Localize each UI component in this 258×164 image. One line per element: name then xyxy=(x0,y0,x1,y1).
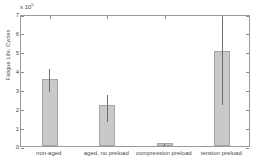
y-tick-mark-right xyxy=(246,148,249,149)
error-bar xyxy=(107,95,108,121)
y-axis-multiplier-base: x 10 xyxy=(20,4,31,10)
y-axis-label: Fatigue Life, Cycles xyxy=(5,17,11,93)
y-axis-multiplier: x 105 xyxy=(20,2,34,10)
fatigue-life-bar-chart: Fatigue Life, Cycles x 105 01234567 non-… xyxy=(0,0,258,164)
y-tick-mark xyxy=(21,72,24,73)
y-tick-label: 3 xyxy=(16,88,19,95)
y-axis-multiplier-exponent: 5 xyxy=(31,2,33,7)
y-tick-mark xyxy=(21,148,24,149)
y-tick-mark-right xyxy=(246,129,249,130)
x-tick-label: tension preload xyxy=(201,150,242,156)
x-tick-mark xyxy=(50,16,51,19)
y-tick-label: 2 xyxy=(16,107,19,114)
x-tick-label: non-aged xyxy=(36,150,61,156)
y-tick-mark xyxy=(21,91,24,92)
y-tick-label: 7 xyxy=(16,12,19,19)
y-tick-mark-right xyxy=(246,72,249,73)
error-bar xyxy=(222,17,223,105)
y-tick-label: 5 xyxy=(16,50,19,57)
y-tick-mark-right xyxy=(246,53,249,54)
y-tick-label: 4 xyxy=(16,69,19,76)
x-tick-label: compression preload xyxy=(136,150,192,156)
error-bar xyxy=(49,69,50,93)
y-tick-mark-right xyxy=(246,16,249,17)
y-tick-mark xyxy=(21,34,24,35)
y-tick-mark-right xyxy=(246,91,249,92)
y-tick-mark xyxy=(21,16,24,17)
x-tick-mark xyxy=(165,16,166,19)
x-tick-mark xyxy=(107,16,108,19)
y-tick-mark xyxy=(21,129,24,130)
error-bar xyxy=(164,144,165,146)
x-tick-label: aged, no preload xyxy=(84,150,129,156)
y-tick-mark xyxy=(21,110,24,111)
y-tick-label: 0 xyxy=(16,144,19,151)
y-tick-mark-right xyxy=(246,34,249,35)
y-tick-label: 6 xyxy=(16,31,19,38)
plot-area: 01234567 xyxy=(20,15,250,147)
y-tick-label: 1 xyxy=(16,126,19,133)
y-tick-mark-right xyxy=(246,110,249,111)
y-tick-mark xyxy=(21,53,24,54)
